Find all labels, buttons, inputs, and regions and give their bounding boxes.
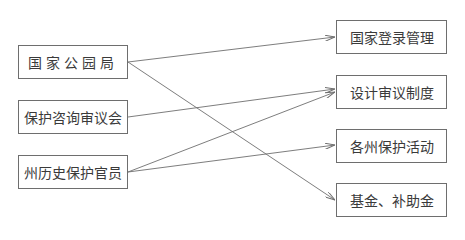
edge-l2-r2 [128, 89, 335, 117]
node-advisory-council: 保护咨询审议会 [18, 100, 128, 134]
edge-l3-r3 [128, 145, 335, 172]
node-label: 各州保护活动 [350, 136, 434, 156]
node-label: 基金、补助金 [350, 190, 434, 210]
node-label: 国家登录管理 [350, 27, 434, 47]
node-national-park-service: 国家公园局 [18, 45, 128, 79]
node-funds-grants: 基金、补助金 [336, 183, 447, 217]
node-national-register: 国家登录管理 [336, 20, 447, 54]
edge-l1-r1 [128, 37, 335, 62]
node-design-review: 设计审议制度 [336, 75, 447, 109]
node-label: 国家公园局 [28, 52, 118, 72]
node-state-activities: 各州保护活动 [336, 129, 447, 163]
node-label: 设计审议制度 [350, 82, 434, 102]
edge-l1-r4 [128, 62, 335, 200]
edge-l3-r2 [128, 92, 335, 172]
node-label: 保护咨询审议会 [24, 107, 122, 127]
node-state-preservation-officer: 州历史保护官员 [18, 155, 128, 189]
node-label: 州历史保护官员 [24, 162, 122, 182]
